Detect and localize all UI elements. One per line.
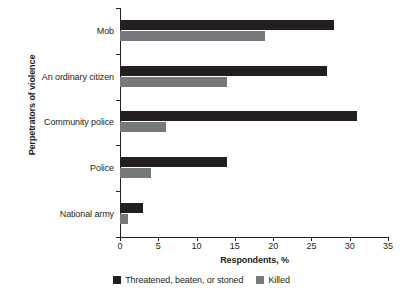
x-axis-tick-label: 35 — [383, 241, 393, 251]
x-axis-tick-label: 5 — [156, 241, 161, 251]
bar-group: Mob — [120, 8, 388, 54]
bar-1 — [120, 122, 166, 132]
x-axis-title: Respondents, % — [120, 255, 389, 265]
bar-group: National army — [120, 191, 388, 237]
x-axis-tick-label: 20 — [268, 241, 278, 251]
y-axis-tick — [116, 8, 120, 9]
bar-group: Community police — [120, 100, 388, 146]
bar-0 — [120, 157, 227, 167]
y-axis-tick-label: Community police — [44, 117, 114, 127]
legend-swatch-icon — [113, 276, 121, 284]
y-axis-tick — [116, 100, 120, 101]
legend-label: Killed — [268, 275, 289, 285]
legend-label: Threatened, beaten, or stoned — [125, 275, 243, 285]
y-axis-tick-label: Police — [90, 163, 114, 173]
bar-0 — [120, 203, 143, 213]
x-axis-tick-label: 30 — [345, 241, 355, 251]
bar-group: Police — [120, 145, 388, 191]
x-axis-tick-label: 10 — [192, 241, 202, 251]
x-axis-tick-label: 15 — [230, 241, 240, 251]
y-axis-tick — [116, 54, 120, 55]
bar-1 — [120, 31, 265, 41]
bar-group: An ordinary citizen — [120, 54, 388, 100]
plot-area: MobAn ordinary citizenCommunity policePo… — [120, 8, 388, 237]
y-axis-tick — [116, 191, 120, 192]
x-axis-tick-label: 25 — [306, 241, 316, 251]
chart-legend: Threatened, beaten, or stonedKilled — [0, 275, 403, 285]
legend-swatch-icon — [256, 276, 264, 284]
bar-1 — [120, 168, 151, 178]
y-axis-tick — [116, 145, 120, 146]
x-axis-tick-label: 0 — [117, 241, 122, 251]
y-axis-tick-label: Mob — [97, 26, 114, 36]
bar-chart: Perpetrators of violence MobAn ordinary … — [0, 0, 403, 297]
y-axis-tick-label: National army — [60, 209, 114, 219]
bar-0 — [120, 20, 334, 30]
bar-1 — [120, 77, 227, 87]
bar-0 — [120, 111, 357, 121]
y-axis-title: Perpetrators of violence — [27, 25, 37, 185]
y-axis-tick-label: An ordinary citizen — [42, 72, 114, 82]
legend-item[interactable]: Threatened, beaten, or stoned — [113, 275, 243, 285]
bar-0 — [120, 66, 327, 76]
bar-1 — [120, 214, 128, 224]
legend-item[interactable]: Killed — [256, 275, 289, 285]
